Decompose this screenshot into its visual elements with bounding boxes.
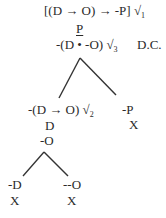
root-formula: [(D → O) → -P] √1 xyxy=(44,4,145,20)
branch-line-top-left xyxy=(59,58,80,98)
dc-annotation: D.C. xyxy=(137,38,162,52)
check-index-3: 3 xyxy=(114,45,118,54)
check-index-1: 1 xyxy=(141,11,145,20)
right-branch-formula: -P xyxy=(122,103,134,117)
left-branch-formula: -(D → O) √2 xyxy=(28,103,94,119)
premise-formula: P xyxy=(76,22,83,36)
sub-branch-left-closed-mark: X xyxy=(10,194,19,208)
right-branch-closed-mark: X xyxy=(129,118,138,132)
left-branch-child-not-o: -O xyxy=(40,134,54,148)
sub-branch-right-closed-mark: X xyxy=(67,194,76,208)
left-branch-child-d: D xyxy=(45,119,54,133)
sub-branch-left-formula: -D xyxy=(8,178,22,192)
branch-line-top-right xyxy=(80,58,116,95)
branch-line-bottom-right xyxy=(44,152,68,176)
negated-conclusion: -(D • -O) √3 xyxy=(56,38,118,54)
sub-branch-right-formula: --O xyxy=(63,178,81,192)
check-index-2: 2 xyxy=(90,110,94,119)
branch-line-bottom-left xyxy=(23,152,44,176)
